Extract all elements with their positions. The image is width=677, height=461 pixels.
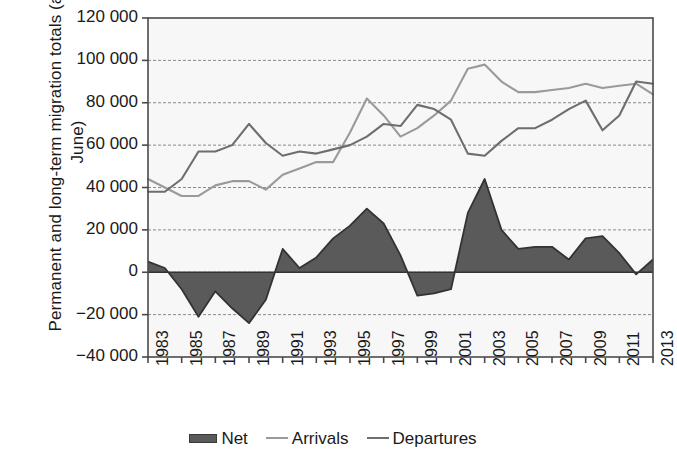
x-tick-label: 2001: [457, 330, 475, 366]
x-tick-label: 1993: [322, 330, 340, 366]
legend-item-net[interactable]: Net: [189, 428, 247, 449]
x-tick-label: 1985: [188, 330, 206, 366]
x-tick-label: 1991: [289, 330, 307, 366]
legend-item-arrivals[interactable]: Arrivals: [266, 428, 349, 449]
legend-swatch-arrivals: [266, 437, 288, 439]
chart-legend: NetArrivalsDepartures: [0, 428, 666, 449]
legend-swatch-departures: [367, 437, 389, 439]
legend-item-departures[interactable]: Departures: [367, 428, 477, 449]
x-tick-label: 1999: [423, 330, 441, 366]
x-tick-label: 2005: [524, 330, 542, 366]
x-tick-label: 2007: [558, 330, 576, 366]
legend-label: Departures: [393, 429, 477, 448]
x-tick-label: 1987: [221, 330, 239, 366]
legend-label: Net: [221, 429, 247, 448]
x-tick-label: 1997: [390, 330, 408, 366]
legend-swatch-net: [189, 434, 217, 443]
x-tick-label: 2011: [625, 332, 643, 366]
x-tick-label: 1995: [356, 330, 374, 366]
x-tick-label: 2009: [592, 330, 610, 366]
x-tick-label: 1989: [255, 330, 273, 366]
legend-label: Arrivals: [292, 429, 349, 448]
x-tick-label: 1983: [154, 330, 172, 366]
x-tick-label: 2003: [491, 330, 509, 366]
x-tick-label: 2013: [659, 330, 677, 366]
